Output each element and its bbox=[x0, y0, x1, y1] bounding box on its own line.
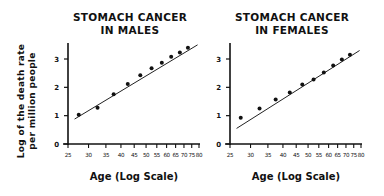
x-axis-label: Age (Log Scale) bbox=[252, 171, 340, 182]
data-point bbox=[258, 107, 262, 111]
data-point bbox=[96, 106, 100, 110]
x-tick-label: 75 bbox=[351, 152, 358, 158]
data-point bbox=[112, 92, 116, 96]
regression-line bbox=[237, 51, 360, 129]
x-tick-label: 65 bbox=[172, 152, 179, 158]
x-tick-label: 30 bbox=[247, 152, 254, 158]
x-tick-label: 35 bbox=[265, 152, 272, 158]
x-axis-label: Age (Log Scale) bbox=[90, 171, 178, 182]
data-point bbox=[178, 50, 182, 54]
chart-canvas: Log of the death rate per million people… bbox=[0, 0, 384, 196]
data-point bbox=[348, 53, 352, 57]
chart-title-line-2: IN FEMALES bbox=[255, 24, 329, 36]
data-point bbox=[186, 46, 190, 50]
chart-title-line-1: STOMACH CANCER bbox=[73, 11, 187, 23]
x-tick-label: 60 bbox=[163, 152, 170, 158]
x-tick-label: 70 bbox=[181, 152, 188, 158]
y-tick-label: 2 bbox=[216, 84, 221, 92]
x-tick-label: 25 bbox=[227, 152, 234, 158]
y-axis-label: Log of the death rate per million people bbox=[16, 44, 37, 158]
x-tick-label: 40 bbox=[118, 152, 125, 158]
data-point bbox=[300, 83, 304, 87]
regression-line bbox=[75, 45, 198, 119]
y-tick-label: 3 bbox=[54, 56, 59, 64]
data-point bbox=[331, 64, 335, 68]
axes: 0123253035404550556065707580 bbox=[54, 43, 203, 158]
data-point bbox=[77, 113, 81, 117]
x-tick-label: 75 bbox=[189, 152, 196, 158]
data-points bbox=[239, 53, 352, 120]
x-tick-label: 45 bbox=[131, 152, 138, 158]
y-tick-label: 1 bbox=[216, 112, 221, 120]
x-tick-label: 55 bbox=[316, 152, 323, 158]
chart-title-line-1: STOMACH CANCER bbox=[235, 11, 349, 23]
x-tick-label: 70 bbox=[343, 152, 350, 158]
x-tick-label: 25 bbox=[65, 152, 72, 158]
y-tick-label: 2 bbox=[54, 84, 59, 92]
x-tick-label: 40 bbox=[280, 152, 287, 158]
y-tick-label: 0 bbox=[216, 141, 221, 149]
data-point bbox=[340, 58, 344, 62]
x-tick-label: 50 bbox=[143, 152, 150, 158]
y-axis-label-line-1: Log of the death rate bbox=[16, 44, 26, 158]
trend-line bbox=[237, 51, 360, 129]
data-point bbox=[150, 66, 154, 70]
data-point bbox=[312, 77, 316, 81]
data-point bbox=[160, 61, 164, 65]
trend-line bbox=[75, 45, 198, 119]
data-points bbox=[77, 46, 190, 117]
data-point bbox=[169, 55, 173, 59]
x-tick-label: 80 bbox=[358, 152, 365, 158]
chart-title-line-2: IN MALES bbox=[101, 24, 160, 36]
x-tick-label: 30 bbox=[85, 152, 92, 158]
x-tick-label: 65 bbox=[334, 152, 341, 158]
x-tick-label: 60 bbox=[325, 152, 332, 158]
x-tick-label: 45 bbox=[293, 152, 300, 158]
data-point bbox=[138, 73, 142, 77]
chart-panel-females: STOMACH CANCER IN FEMALES 01232530354045… bbox=[216, 11, 365, 182]
data-point bbox=[126, 82, 130, 86]
data-point bbox=[322, 71, 326, 75]
x-tick-label: 50 bbox=[305, 152, 312, 158]
data-point bbox=[288, 90, 292, 94]
data-point bbox=[274, 98, 278, 102]
y-tick-label: 0 bbox=[54, 141, 59, 149]
y-tick-label: 3 bbox=[216, 56, 221, 64]
x-tick-label: 55 bbox=[154, 152, 161, 158]
x-tick-label: 80 bbox=[196, 152, 203, 158]
chart-panel-males: STOMACH CANCER IN MALES 0123253035404550… bbox=[54, 11, 203, 182]
data-point bbox=[239, 116, 243, 120]
y-axis-label-line-2: per million people bbox=[27, 52, 37, 149]
x-tick-label: 35 bbox=[103, 152, 110, 158]
y-tick-label: 1 bbox=[54, 112, 59, 120]
